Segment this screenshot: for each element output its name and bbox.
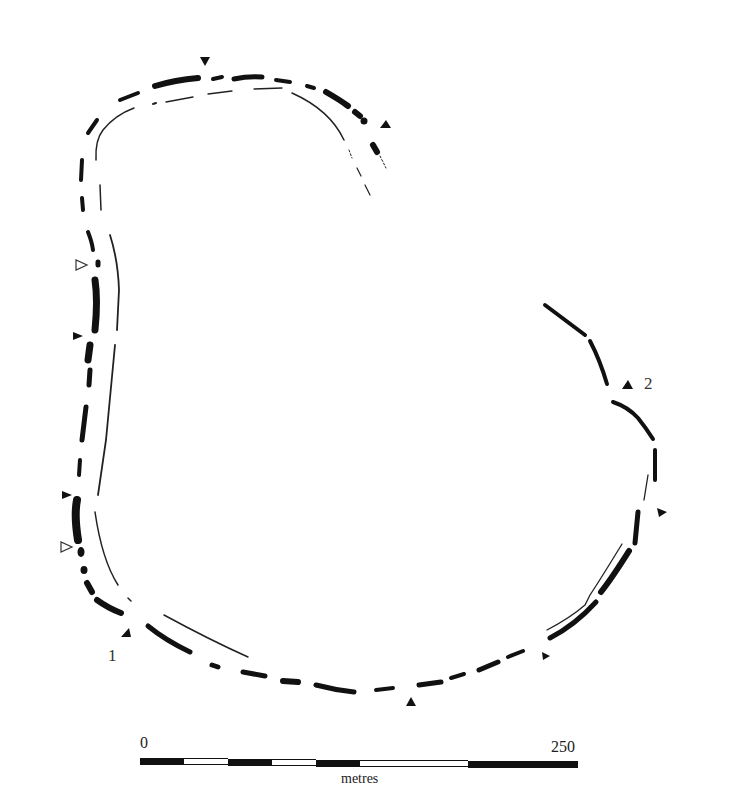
hollow-triangle-icon xyxy=(76,260,87,270)
scale-segment xyxy=(272,759,316,766)
hollow-triangle-icon xyxy=(61,542,72,552)
marker-triangle-icon xyxy=(73,332,83,340)
scale-segment xyxy=(184,758,228,765)
scale-segment xyxy=(468,761,578,768)
marker-triangle-icon xyxy=(121,628,131,637)
inner-ditch xyxy=(95,88,648,657)
scale-end-label: 250 xyxy=(551,738,575,756)
marker-triangle-icon xyxy=(380,120,391,128)
outer-bank xyxy=(76,77,655,692)
entrance-label-2: 2 xyxy=(644,374,653,394)
scale-unit-label: metres xyxy=(341,771,378,787)
marker-triangle-icon xyxy=(406,697,416,706)
scale-start-label: 0 xyxy=(140,734,148,752)
entrance-label-1: 1 xyxy=(108,646,117,666)
scale-segment xyxy=(228,759,272,766)
site-plan xyxy=(0,0,729,799)
scale-segment xyxy=(316,760,360,767)
scale-segment xyxy=(140,758,184,765)
marker-triangle-icon xyxy=(200,57,210,66)
marker-triangle-icon xyxy=(657,508,667,517)
marker-triangle-icon xyxy=(622,380,633,389)
entrance-markers xyxy=(62,57,667,706)
marker-triangle-icon xyxy=(62,491,72,499)
marker-triangle-icon xyxy=(542,652,550,660)
scale-segment xyxy=(360,760,468,767)
